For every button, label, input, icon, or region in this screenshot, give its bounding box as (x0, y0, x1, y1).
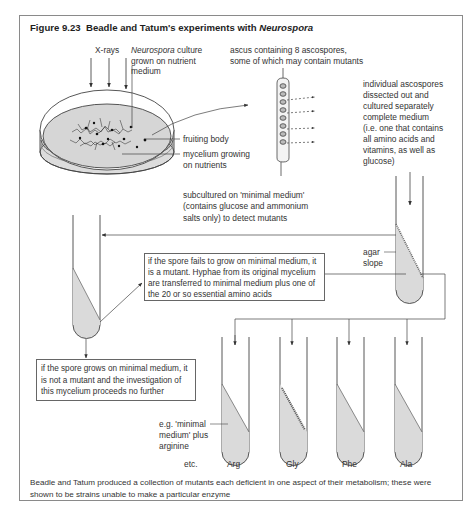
non-mutant-box-line: is not a mutant and the investigation of (41, 376, 181, 385)
individual-line: dissected out and (363, 90, 429, 100)
mycelium-label: mycelium growingon nutrients (183, 149, 250, 170)
example-line: arginine (159, 441, 189, 451)
ascus-label-line1: ascus containing 8 ascospores, (230, 45, 347, 55)
mutant-info-box: if the spore fails to grow on minimal me… (144, 253, 325, 301)
individual-line: individual ascospores (363, 79, 443, 89)
complete-medium-tube (396, 172, 423, 304)
culture-label-line3: medium (131, 66, 161, 76)
agar-line2: slope (363, 258, 383, 268)
ascus-label: ascus containing 8 ascospores,some of wh… (230, 45, 363, 66)
agar-slope-label: agarslope (363, 247, 383, 268)
mutant-box-line: is a mutant. Hyphae from its original my… (148, 268, 315, 277)
culture-label-rest: culture (175, 45, 202, 55)
mutant-box-line: the 20 or so essential amino acids (148, 290, 272, 299)
non-mutant-box-line: if the spore grows on minimal medium, it (41, 364, 188, 373)
etc-label: etc. (184, 459, 198, 470)
fruiting-body-label: fruiting body (183, 134, 229, 145)
petri-dish (40, 90, 174, 174)
individual-line: (i.e. one that contains (363, 123, 443, 133)
xrays-label: X-rays (95, 45, 119, 56)
subcultured-line: subcultured on 'minimal medium' (183, 190, 304, 200)
individual-line: cultured separately (363, 101, 434, 111)
subcultured-label: subcultured on 'minimal medium' (contain… (183, 190, 308, 224)
non-mutant-info-box: if the spore grows on minimal medium, it… (36, 359, 196, 401)
figure-caption: Beadle and Tatum produced a collection o… (30, 477, 450, 500)
subcultured-line: (contains glucose and ammonium (183, 201, 308, 211)
individual-line: all amino acids and (363, 134, 435, 144)
minimal-medium-tube (73, 215, 100, 339)
tube-label-phe: Phe (342, 459, 357, 470)
subcultured-line: salts only) to detect mutants (183, 213, 287, 223)
culture-label: Neurospora culturegrown on nutrientmediu… (131, 45, 202, 77)
tube-label-ala: Ala (400, 459, 412, 470)
dissection-arrows (287, 97, 315, 143)
example-label: e.g. 'minimal medium' plus arginine (159, 419, 208, 451)
example-line: e.g. 'minimal (159, 419, 206, 429)
individual-line: vitamins, as well as (363, 145, 435, 155)
agar-line1: agar (363, 247, 380, 257)
mutant-box-line: if the spore fails to grow on minimal me… (148, 257, 316, 266)
non-mutant-box-line: this mycelium proceeds no further (41, 387, 164, 396)
ascus-label-line2: some of which may contain mutants (230, 56, 363, 66)
culture-label-italic: Neurospora (131, 45, 175, 55)
individual-ascospores-label: individual ascospores dissected out and … (363, 79, 443, 167)
individual-line: complete medium (363, 112, 429, 122)
mutant-box-line: are transferred to minimal medium plus o… (148, 279, 315, 288)
mycelium-line1: mycelium growing (183, 149, 250, 159)
tube-label-arg: Arg (227, 459, 240, 470)
culture-label-line2: grown on nutrient (131, 56, 196, 66)
mycelium-line2: on nutrients (183, 160, 227, 170)
example-line: medium' plus (159, 430, 208, 440)
ascus (277, 68, 289, 176)
amino-acid-tubes (222, 337, 422, 466)
xray-arrows (91, 58, 126, 89)
tube-label-gly: Gly (286, 459, 299, 470)
individual-line: glucose) (363, 156, 395, 166)
